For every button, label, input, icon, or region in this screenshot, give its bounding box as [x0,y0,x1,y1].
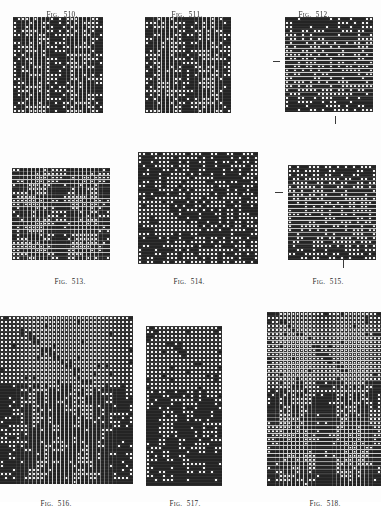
grid-canvas [145,17,231,113]
caption-prefix-dot: . [320,500,322,508]
point-paper-grid-517 [146,326,222,486]
point-paper-grid-514 [138,152,258,264]
caption-number: 510. [64,11,78,19]
grid-canvas [288,165,376,260]
caption-number: 516. [58,500,72,508]
figure-caption-513: FIG. 513. [41,270,99,288]
grid-canvas [0,316,133,484]
grid-canvas [12,168,110,260]
caption-number: 517. [187,500,201,508]
grid-canvas [138,152,258,264]
figure-caption-517: FIG. 517. [156,492,214,510]
figure-caption-516: FIG. 516. [27,492,85,510]
caption-number: 514. [191,278,205,286]
registration-tick-horizontal [273,61,280,62]
caption-prefix-dot: . [65,278,67,286]
caption-prefix-dot: . [309,11,311,19]
point-paper-grid-512 [285,17,373,112]
grid-canvas [285,17,373,112]
caption-prefix-dot: . [184,278,186,286]
grid-canvas [146,326,222,486]
caption-prefix-dot: . [51,500,53,508]
figure-caption-510: FIG. 510. [33,3,91,21]
caption-prefix-dot: . [323,278,325,286]
caption-prefix-dot: . [57,11,59,19]
point-paper-grid-510 [13,17,103,113]
figure-caption-514: FIG. 514. [160,270,218,288]
registration-tick-vertical [335,116,336,124]
registration-tick-horizontal [275,192,283,193]
point-paper-grid-515 [288,165,376,260]
registration-tick-vertical [343,260,344,268]
caption-number: 513. [72,278,86,286]
caption-number: 518. [327,500,341,508]
figure-caption-512: FIG. 512. [285,3,343,21]
caption-number: 511. [189,11,203,19]
grid-canvas [267,312,381,486]
grid-canvas [13,17,103,113]
point-paper-grid-518 [267,312,381,486]
figure-caption-511: FIG. 511. [158,3,216,21]
point-paper-grid-511 [145,17,231,113]
caption-number: 515. [330,278,344,286]
figure-caption-518: FIG. 518. [296,492,354,510]
caption-prefix-dot: . [180,500,182,508]
point-paper-grid-516 [0,316,133,484]
caption-prefix-dot: . [182,11,184,19]
caption-number: 512. [316,11,330,19]
figure-caption-515: FIG. 515. [299,270,357,288]
point-paper-grid-513 [12,168,110,260]
